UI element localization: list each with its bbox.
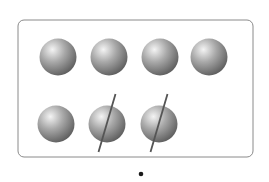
ball xyxy=(91,39,128,76)
bullet-dot xyxy=(139,172,144,177)
ball-group xyxy=(38,39,228,153)
ball xyxy=(191,39,228,76)
ball xyxy=(40,39,77,76)
ball xyxy=(38,106,75,143)
ball xyxy=(142,39,179,76)
counting-diagram xyxy=(0,0,269,182)
